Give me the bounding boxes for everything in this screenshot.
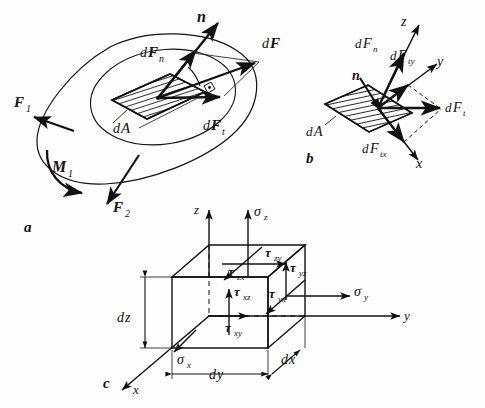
cube-front-face — [172, 277, 268, 348]
panel-c: z y x σ z σ y σ x τ zy τ zx τ yz τ yx τ … — [103, 202, 410, 397]
label-F1: F — [13, 94, 24, 110]
label-dz-d: d — [117, 310, 125, 325]
label-dz: z — [124, 310, 131, 325]
label-tau-xy: τ — [225, 320, 232, 335]
label-dFt: F — [210, 117, 221, 133]
label-tau-yz-sub: yz — [298, 268, 307, 278]
panel-c-label: c — [103, 375, 110, 391]
label-dA-d: d — [113, 121, 121, 136]
label-dFn: F — [147, 44, 158, 60]
label-tau-xz-sub: xz — [242, 292, 251, 302]
right-angle-dot — [208, 86, 211, 89]
label-M1: M — [51, 158, 67, 175]
label-sigma-z-sub: z — [263, 212, 268, 222]
label-tau-xy-sub: xy — [233, 328, 242, 338]
label-F1-sub: 1 — [26, 103, 31, 114]
label-sigma-x: σ — [177, 352, 185, 367]
label-dy: y — [215, 367, 224, 382]
label-dA-b-d: d — [306, 124, 313, 139]
label-M1-sub: 1 — [68, 168, 73, 179]
label-axis-z-c: z — [193, 202, 199, 217]
label-F2: F — [112, 199, 123, 215]
label-dFt-b-sub: t — [463, 108, 466, 118]
label-axis-y-c: y — [402, 308, 410, 323]
figure-canvas: F 1 F 2 M 1 n d F d F n d F t d A a — [0, 0, 485, 408]
construction-line-1 — [193, 53, 259, 62]
label-axis-x-b: x — [415, 156, 423, 171]
label-dA-b: A — [313, 124, 323, 139]
label-dF-d: d — [262, 36, 270, 51]
label-n-vector-b: n — [352, 68, 360, 83]
label-dF: F — [269, 35, 280, 51]
label-dFt-sub: t — [222, 126, 225, 137]
label-dFt-b: F — [452, 100, 462, 115]
label-axis-z-b: z — [400, 14, 407, 29]
label-sigma-y: σ — [354, 284, 362, 299]
label-tau-yx: τ — [269, 286, 276, 301]
label-axis-y-b: y — [435, 54, 444, 69]
label-tau-yz: τ — [290, 260, 297, 275]
label-dy-d: d — [209, 367, 217, 382]
panel-a-label: a — [24, 219, 32, 235]
label-dFty-b: F — [397, 48, 407, 63]
label-dFn-b: F — [362, 36, 372, 51]
label-dx: x — [288, 352, 296, 367]
label-dFt-d: d — [203, 118, 211, 133]
technical-diagram: F 1 F 2 M 1 n d F d F n d F t d A a — [0, 0, 485, 408]
dimension-dz — [140, 277, 172, 348]
force-F2-arrow — [107, 155, 139, 204]
label-sigma-y-sub: y — [363, 292, 368, 302]
label-dFt-b-d: d — [445, 100, 452, 115]
label-axis-x-c: x — [132, 382, 139, 397]
force-vector-dFt — [158, 97, 220, 98]
label-tau-zy: τ — [265, 245, 272, 260]
label-dFtx-b-sub: tx — [380, 149, 387, 159]
label-sigma-z: σ — [254, 204, 262, 219]
label-dFty-b-sub: ty — [408, 56, 415, 66]
label-sigma-x-sub: x — [186, 360, 191, 370]
label-dFty-b-d: d — [390, 48, 397, 63]
panel-b: z y x n d F n d F ty d F t d F tx d A b — [306, 14, 466, 171]
dA-leader-b — [325, 116, 336, 125]
label-tau-xz: τ — [234, 284, 241, 299]
panel-b-label: b — [306, 150, 314, 166]
axis-x-c — [122, 316, 209, 390]
label-dFn-d: d — [140, 45, 148, 60]
label-dFtx-b: F — [369, 141, 379, 156]
dashed-construction-1 — [408, 85, 441, 109]
label-n-vector: n — [197, 8, 206, 25]
label-dx-d: d — [281, 352, 289, 367]
label-dFtx-b-d: d — [362, 141, 369, 156]
label-F2-sub: 2 — [125, 208, 130, 219]
label-dFn-b-sub: n — [373, 44, 378, 54]
label-tau-zy-sub: zy — [273, 253, 282, 263]
label-dFn-b-d: d — [355, 36, 362, 51]
label-dA: A — [120, 120, 131, 136]
label-dFn-sub: n — [159, 53, 164, 64]
panel-a: F 1 F 2 M 1 n d F d F n d F t d A a — [13, 8, 280, 235]
label-tau-zx-sub: zx — [236, 272, 245, 282]
label-tau-yx-sub: yx — [277, 294, 286, 304]
